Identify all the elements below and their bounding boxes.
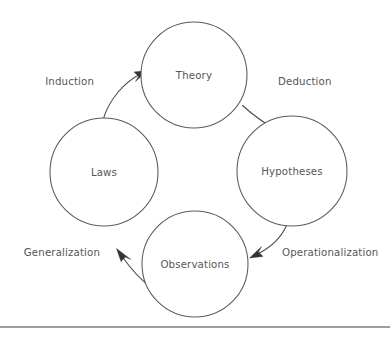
edge-induction-label: Induction — [45, 76, 94, 87]
node-hypotheses[interactable]: Hypotheses — [237, 116, 347, 226]
node-hypotheses-label: Hypotheses — [261, 166, 323, 177]
node-observations[interactable]: Observations — [142, 211, 248, 317]
node-laws[interactable]: Laws — [50, 118, 158, 226]
node-theory[interactable]: Theory — [141, 22, 247, 128]
node-theory-label: Theory — [175, 70, 212, 81]
node-laws-label: Laws — [91, 167, 117, 178]
edge-operationalization: Operationalization — [250, 226, 379, 259]
edge-generalization: Generalization — [24, 247, 154, 290]
edge-operationalization-label: Operationalization — [282, 247, 378, 258]
scientific-method-cycle-diagram: Induction Deduction Operationalization G… — [0, 0, 390, 338]
node-observations-label: Observations — [160, 259, 229, 270]
edge-generalization-arrowhead — [117, 249, 131, 262]
cycle-diagram-canvas: Induction Deduction Operationalization G… — [0, 0, 390, 338]
edge-induction-path — [104, 74, 142, 119]
edge-induction: Induction — [45, 71, 147, 119]
edge-generalization-label: Generalization — [24, 247, 100, 258]
edge-deduction-label: Deduction — [278, 76, 332, 87]
